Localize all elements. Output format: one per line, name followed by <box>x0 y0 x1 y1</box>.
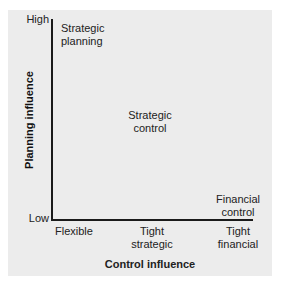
x-axis-title: Control influence <box>90 258 210 271</box>
tick-line: financial <box>208 238 268 251</box>
tick-line: Flexible <box>55 225 93 238</box>
y-axis-line <box>51 19 53 221</box>
x-tick-flexible: Flexible <box>55 225 93 238</box>
x-tick-tight-financial: Tight financial <box>208 225 268 251</box>
tick-line: strategic <box>122 238 182 251</box>
style-strategic-planning: Strategic planning <box>61 22 104 48</box>
y-axis-title: Planning influence <box>23 71 35 169</box>
tick-line: Tight <box>122 225 182 238</box>
style-line: planning <box>61 35 104 48</box>
style-line: control <box>208 206 268 219</box>
style-line: control <box>120 122 180 135</box>
style-line: Financial <box>208 193 268 206</box>
y-axis-low-label: Low <box>20 212 49 225</box>
y-axis-high-label: High <box>20 13 49 26</box>
tick-line: Tight <box>208 225 268 238</box>
x-tick-tight-strategic: Tight strategic <box>122 225 182 251</box>
style-strategic-control: Strategic control <box>120 109 180 135</box>
style-line: Strategic <box>120 109 180 122</box>
style-financial-control: Financial control <box>208 193 268 219</box>
style-line: Strategic <box>61 22 104 35</box>
x-axis-line <box>51 219 253 221</box>
